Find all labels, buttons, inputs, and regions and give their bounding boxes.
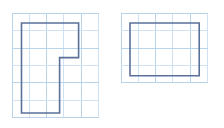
grid-left-shape xyxy=(12,14,99,118)
geometry-figure-svg xyxy=(0,0,224,128)
grid-layer xyxy=(12,14,208,118)
figure-canvas xyxy=(0,0,224,128)
grid-right-shape xyxy=(121,14,208,83)
